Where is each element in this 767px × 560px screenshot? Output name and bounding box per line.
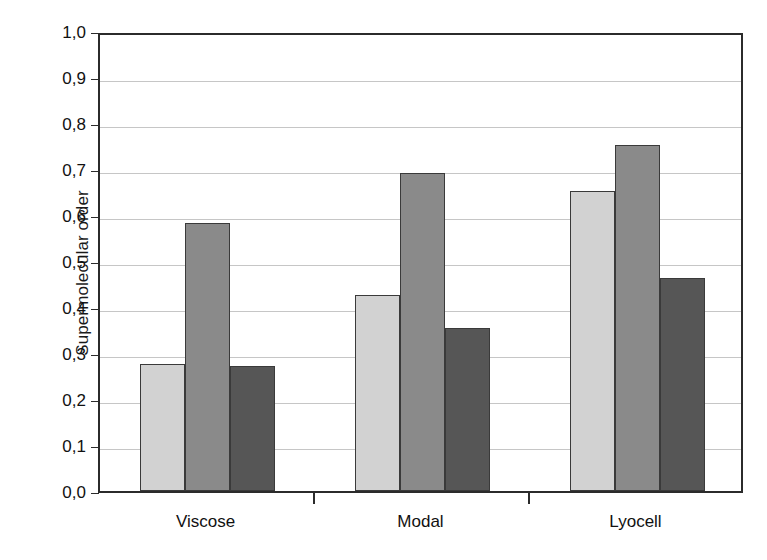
y-axis-tick-label: 0,7 xyxy=(36,161,86,181)
y-axis-tick-label: 0,8 xyxy=(36,115,86,135)
y-axis-tick-mark xyxy=(91,125,99,126)
y-axis-tick-label: 0,1 xyxy=(36,437,86,457)
gridline xyxy=(100,81,741,82)
y-axis-tick-mark xyxy=(91,401,99,402)
bar xyxy=(230,366,275,491)
x-axis-category-label: Modal xyxy=(397,512,443,532)
bar xyxy=(140,364,185,491)
y-axis-tick-mark xyxy=(91,493,99,494)
y-axis-tick-mark xyxy=(91,263,99,264)
y-axis-tick-label: 0,4 xyxy=(36,299,86,319)
y-axis-tick-mark xyxy=(91,217,99,218)
y-axis-tick-label: 0,6 xyxy=(36,207,86,227)
y-axis-tick-labels: 0,00,10,20,30,40,50,60,70,80,91,0 xyxy=(36,33,86,493)
y-axis-tick-mark xyxy=(91,309,99,310)
x-axis-tick-mark xyxy=(313,493,315,504)
y-axis-tick-mark xyxy=(91,447,99,448)
bar xyxy=(355,295,400,491)
bar-chart: Supermolecular order 0,00,10,20,30,40,50… xyxy=(0,0,767,560)
y-axis-tick-label: 0,9 xyxy=(36,69,86,89)
x-axis-category-label: Viscose xyxy=(176,512,235,532)
y-axis-tick-mark xyxy=(91,171,99,172)
y-axis-tick-label: 0,5 xyxy=(36,253,86,273)
plot-area xyxy=(98,33,743,493)
x-axis-tick-mark xyxy=(528,493,530,504)
bar xyxy=(615,145,660,491)
bar xyxy=(185,223,230,491)
y-axis-tick-mark xyxy=(91,33,99,34)
y-axis-tick-label: 0,3 xyxy=(36,345,86,365)
bar xyxy=(570,191,615,491)
y-axis-tick-label: 0,0 xyxy=(36,483,86,503)
gridline xyxy=(100,127,741,128)
y-axis-tick-label: 0,2 xyxy=(36,391,86,411)
bar xyxy=(445,328,490,491)
bar xyxy=(400,173,445,491)
y-axis-tick-label: 1,0 xyxy=(36,23,86,43)
y-axis-tick-mark xyxy=(91,355,99,356)
y-axis-tick-mark xyxy=(91,79,99,80)
bar xyxy=(660,278,705,491)
x-axis-category-label: Lyocell xyxy=(609,512,661,532)
